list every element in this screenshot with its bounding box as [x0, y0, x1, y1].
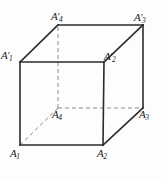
vertex-label-a2: A2: [97, 148, 107, 161]
vertex-label-a3-prime: A′3: [134, 12, 146, 25]
edge-a1p-a4p: [20, 25, 58, 62]
visible-edges: [20, 25, 143, 145]
vertex-label-a4: A4: [52, 109, 62, 122]
edge-a2-a3: [103, 108, 143, 145]
vertex-label-a3: A3: [139, 109, 149, 122]
cube-drawing: [0, 0, 161, 179]
vertex-label-a1-prime: A′1: [1, 50, 13, 63]
edge-a2-a2p: [103, 62, 104, 145]
cube-figure: A′4 A′3 A′1 A′2 A4 A3 A1 A2: [0, 0, 161, 179]
vertex-label-a1: A1: [10, 148, 20, 161]
vertex-label-a4-prime: A′4: [51, 11, 63, 24]
vertex-label-a2-prime: A′2: [104, 51, 116, 64]
